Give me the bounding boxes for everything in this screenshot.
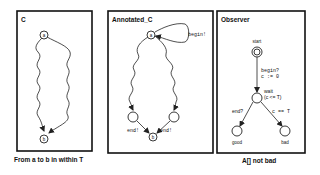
node-wait bbox=[252, 93, 262, 103]
edge-start-wait-update: c := 0 bbox=[261, 74, 279, 80]
panel-c-title: C bbox=[21, 16, 26, 23]
end-label-right: end! bbox=[160, 128, 172, 134]
edge-wait-good bbox=[240, 102, 253, 126]
panel-annotated-c-title: Annotated_C bbox=[112, 16, 153, 23]
diagram-canvas: C a b From a to b in within T Annotated_… bbox=[0, 0, 320, 175]
panel-c-wavy-edge-right bbox=[47, 37, 70, 133]
self-loop-label: begin! bbox=[188, 32, 206, 38]
node-bad-label: bad bbox=[281, 140, 289, 145]
panel-annotated-c: Annotated_C begin! a end! end! b bbox=[108, 11, 213, 153]
node-good-label: good bbox=[232, 140, 243, 145]
panel-c-caption: From a to b in within T bbox=[14, 156, 83, 163]
node-left bbox=[128, 112, 138, 122]
wavy-edge-left bbox=[129, 37, 148, 110]
self-loop-edge bbox=[155, 24, 189, 43]
node-bad bbox=[280, 126, 290, 136]
end-label-left: end! bbox=[127, 128, 139, 134]
panel-observer-caption: A[] not bad bbox=[242, 157, 276, 165]
panel-c-wavy-edge-left bbox=[36, 38, 44, 131]
node-good bbox=[232, 126, 242, 136]
node-start-inner bbox=[254, 49, 260, 55]
panel-c-frame bbox=[17, 11, 92, 151]
node-start-label: start bbox=[253, 39, 263, 44]
panel-observer-frame bbox=[217, 11, 305, 153]
edge-wait-bad-guard: c == T bbox=[272, 109, 290, 115]
node-wait-invariant: (c <= T) bbox=[264, 94, 282, 100]
panel-observer-title: Observer bbox=[221, 16, 250, 23]
node-right bbox=[169, 112, 179, 122]
wavy-edge-right bbox=[155, 36, 177, 110]
edge-wait-good-sync: end? bbox=[232, 108, 243, 114]
panel-observer: Observer start begin? c := 0 wait (c <= … bbox=[217, 11, 305, 153]
panel-c: C a b bbox=[17, 11, 92, 151]
